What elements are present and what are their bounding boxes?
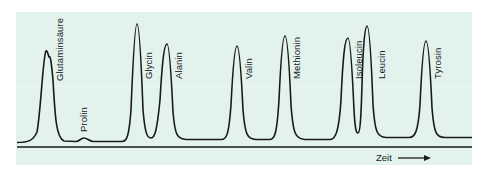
peak-label-isoleucin: Isoleucin (353, 41, 364, 79)
x-axis-label: Zeit (376, 152, 392, 163)
peak-label-glycin: Glycin (143, 52, 154, 79)
arrow-right-icon (424, 155, 431, 161)
peak-label-glutaminsaeure: Glutaminsäure (54, 18, 65, 81)
peak-label-leucin: Leucin (376, 50, 387, 79)
peak-label-prolin: Prolin (78, 107, 89, 132)
peak-label-alanin: Alanin (173, 52, 184, 79)
peak-label-tyrosin: Tyrosin (432, 48, 443, 79)
peak-label-valin: Valin (243, 58, 254, 79)
peak-label-methionin: Methionin (291, 37, 302, 79)
chromatogram-plot (0, 0, 488, 177)
